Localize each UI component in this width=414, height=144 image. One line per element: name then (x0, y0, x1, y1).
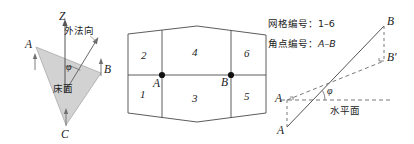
right-phi-angle-label: φ (327, 86, 333, 96)
slope-phi-arc (323, 91, 326, 101)
projected-line-ab (287, 61, 384, 100)
grid-corner-b-label: B (221, 77, 228, 89)
legend-corner-prefix: 角点编号： (268, 38, 318, 49)
corner-point-b-dot (228, 72, 234, 78)
right-angle-tick-b (379, 58, 384, 61)
grid-cell-4-label: 4 (192, 47, 198, 58)
slope-point-a-label: A (277, 125, 284, 137)
slope-point-b-prime-label: B′ (387, 52, 397, 64)
left-vertex-a-label: A (25, 39, 32, 51)
vertex-b-arrowhead (99, 58, 103, 64)
grid-cell-5-label: 5 (244, 91, 250, 102)
grid-cell-1-label: 1 (140, 89, 146, 100)
grid-cell-3-label: 3 (192, 93, 198, 104)
legend-grid-numbering: 网格编号：1–6 (268, 19, 335, 29)
outer-normal-label: 外法向 (64, 26, 94, 36)
middle-panel-group (128, 26, 266, 122)
left-vertex-b-label: B (104, 64, 111, 76)
left-vertex-c-label: C (61, 129, 69, 141)
slope-point-b-label: B (387, 16, 394, 28)
normal-label-leader-line (90, 36, 96, 41)
slope-point-a-prime-label: A (275, 93, 282, 105)
legend-corner-value: A–B (318, 38, 336, 49)
vertex-a-arrowhead (33, 53, 37, 59)
grid-corner-a-label: A (153, 78, 160, 90)
left-phi-angle-label: φ (66, 62, 72, 72)
bed-surface-label: 床面 (53, 84, 73, 94)
grid-cell-2-label: 2 (141, 50, 147, 61)
horizontal-plane-label: 水平面 (330, 106, 360, 116)
grid-cell-6-label: 6 (244, 48, 250, 59)
grid-outer-boundary (128, 26, 266, 122)
legend-corner-numbering: 角点编号：A–B (268, 39, 336, 49)
z-axis-label: Z (59, 11, 65, 23)
